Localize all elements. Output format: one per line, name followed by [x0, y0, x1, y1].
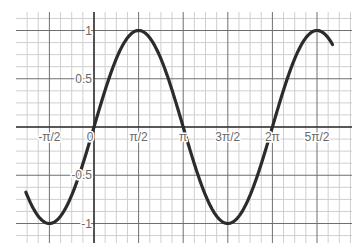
x-tick-label: 5π/2: [305, 130, 330, 144]
y-tick-label: 1: [85, 24, 92, 38]
x-tick-label: π/2: [129, 130, 148, 144]
y-tick-label: -1: [81, 217, 92, 231]
x-tick-label: 2π: [265, 130, 280, 144]
x-tick-label: -π/2: [38, 130, 61, 144]
sine-chart: -π/20π/2π3π/22π5π/210.5-0.5-1: [0, 0, 362, 250]
x-tick-label: π: [179, 130, 187, 144]
y-tick-label: -0.5: [71, 168, 92, 182]
x-tick-label: 0: [87, 130, 94, 144]
x-tick-label: 3π/2: [215, 130, 240, 144]
y-tick-label: 0.5: [75, 72, 92, 86]
